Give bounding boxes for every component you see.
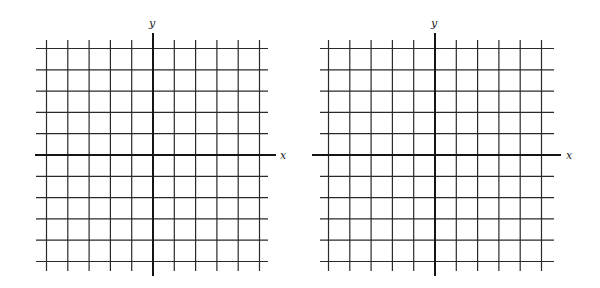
right-y-axis-label: y — [431, 18, 437, 29]
coordinate-grids-svg — [0, 0, 600, 288]
left-y-axis-label: y — [149, 18, 155, 29]
right-x-axis-label: x — [566, 150, 572, 161]
left-coordinate-grid — [35, 33, 276, 276]
left-x-axis-label: x — [280, 150, 286, 161]
right-coordinate-grid — [312, 33, 561, 276]
figure: y x y x — [0, 0, 600, 288]
